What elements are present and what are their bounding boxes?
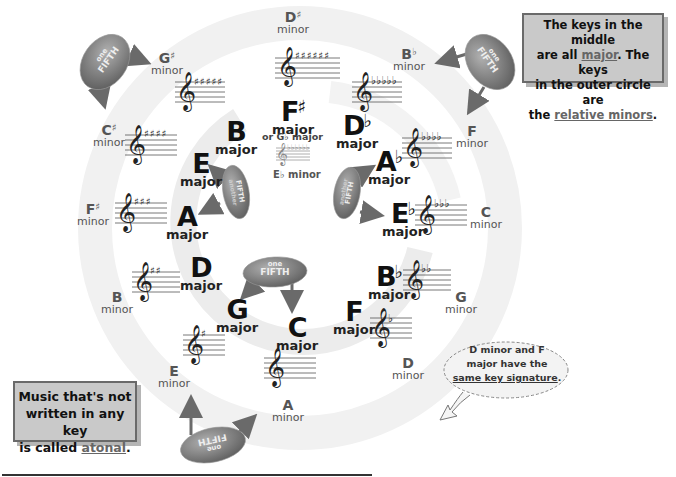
- key-b-minor: B minor: [101, 290, 133, 315]
- flats-6-small-icon: ♭♭♭♭♭♭: [287, 143, 310, 152]
- treble-clef-icon: 𝄞: [126, 126, 146, 160]
- bubble-same-key-signature: D minor and F major have the same key si…: [450, 343, 564, 385]
- treble-clef-icon: 𝄞: [403, 129, 423, 163]
- cloud-label-gsharp: one FIFTH: [88, 37, 124, 79]
- sharps-2-icon: ♯♯: [150, 265, 162, 276]
- sharps-6-icon: ♯♯♯♯♯♯: [295, 50, 330, 61]
- key-c-minor: C minor: [470, 205, 502, 230]
- key-d-flat-major: D♭ major: [336, 112, 378, 150]
- key-f-major: F major: [333, 298, 375, 336]
- key-a-major: A major: [166, 203, 208, 241]
- treble-clef-icon: 𝄞: [176, 73, 196, 107]
- sharps-5-icon: ♯♯♯♯♯: [194, 76, 223, 87]
- link-major[interactable]: major: [582, 48, 618, 62]
- sharps-3-icon: ♯♯♯: [134, 196, 152, 207]
- key-d-sharp-minor: D♯ minor: [277, 10, 309, 35]
- key-f-minor: F minor: [456, 124, 488, 149]
- enharmonic-g-flat-label: or G♭ major: [262, 132, 323, 142]
- cloud-label-e-a: FIFTH another: [226, 171, 247, 213]
- cloud-label-e-a-minor: one FIFTH: [192, 431, 234, 455]
- key-f-sharp-minor: F♯ minor: [77, 202, 109, 227]
- key-d-major: D major: [180, 254, 222, 292]
- flats-5-icon: ♭♭♭♭♭: [371, 74, 397, 87]
- treble-clef-icon: 𝄞: [353, 73, 373, 107]
- bottom-divider: [2, 474, 372, 476]
- note-relative-minors: The keys in the middle are all major. Th…: [522, 13, 664, 83]
- flats-3-icon: ♭♭♭: [434, 197, 450, 210]
- key-b-major: B major: [215, 118, 257, 156]
- cloud-label-g-c: one FIFTH: [255, 261, 295, 277]
- note-atonal: Music that's not written in any key is c…: [13, 381, 137, 442]
- treble-clef-icon: 𝄞: [265, 349, 285, 383]
- cloud-label-aflat-eflat: another FIFTH: [337, 172, 357, 214]
- key-d-minor: D minor: [392, 356, 424, 381]
- treble-clef-icon: 𝄞: [116, 194, 136, 228]
- key-e-minor: E minor: [158, 364, 190, 389]
- key-b-flat-minor: B♭ minor: [393, 47, 425, 72]
- treble-clef-icon: 𝄞: [416, 196, 436, 230]
- flats-1-icon: ♭: [388, 312, 393, 325]
- key-a-minor: A minor: [272, 398, 304, 423]
- cloud-label-bflat: one FIFTH: [472, 37, 508, 79]
- e-flat-minor-label: E♭ minor: [273, 170, 321, 180]
- key-g-minor: G minor: [445, 290, 477, 315]
- key-g-major: G major: [216, 296, 258, 334]
- sharps-4-icon: ♯♯♯♯: [144, 128, 167, 139]
- sharps-1-icon: ♯: [201, 328, 206, 339]
- flats-2-icon: ♭♭: [421, 262, 431, 275]
- link-relative-minors[interactable]: relative minors: [554, 108, 652, 122]
- link-atonal[interactable]: atonal: [81, 440, 126, 455]
- link-same-key-signature[interactable]: same key signature: [453, 372, 558, 383]
- key-c-sharp-minor: C♯ minor: [93, 123, 125, 148]
- flats-4-icon: ♭♭♭♭: [421, 130, 442, 143]
- treble-clef-icon: 𝄞: [277, 48, 297, 82]
